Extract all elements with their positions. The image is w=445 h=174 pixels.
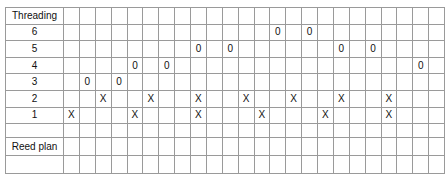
threading-cell-empty: [413, 107, 429, 124]
threading-cell-empty: [318, 90, 334, 107]
threading-mark-x: X: [318, 107, 334, 124]
threading-cell-empty: [206, 74, 222, 91]
threading-cell-empty: [381, 74, 397, 91]
threading-cell-empty: [397, 90, 413, 107]
threading-cell-empty: [429, 24, 445, 41]
threading-cell-empty: [222, 24, 238, 41]
reed-cell-filled: [333, 138, 349, 156]
threading-mark-o: 0: [111, 74, 127, 91]
threading-cell-empty: [381, 24, 397, 41]
threading-cell-empty: [397, 24, 413, 41]
reed-cell-empty: [365, 156, 381, 174]
threading-cell-empty: [381, 41, 397, 58]
reed-cell-empty: [286, 138, 302, 156]
threading-cell-empty: [270, 90, 286, 107]
row-label-shaft-1: 1: [6, 107, 64, 124]
reed-cell-filled: [413, 156, 429, 174]
threading-cell-empty: [191, 124, 207, 138]
threading-cell-empty: [238, 24, 254, 41]
threading-cell-empty: [111, 24, 127, 41]
threading-mark-x: X: [333, 90, 349, 107]
reed-cell-filled: [191, 138, 207, 156]
threading-cell-empty: [254, 24, 270, 41]
threading-cell-empty: [79, 124, 95, 138]
threading-cell-empty: [175, 74, 191, 91]
reed-cell-filled: [238, 138, 254, 156]
row-label-shaft-3: 3: [6, 74, 64, 91]
threading-cell-empty: [381, 8, 397, 25]
threading-cell-empty: [206, 8, 222, 25]
threading-cell-empty: [413, 90, 429, 107]
threading-cell-empty: [318, 8, 334, 25]
threading-cell-empty: [397, 74, 413, 91]
threading-cell-empty: [95, 41, 111, 58]
threading-cell-empty: [175, 24, 191, 41]
reed-cell-filled: [318, 138, 334, 156]
row-label-reed-plan-blank: [6, 156, 64, 174]
row-shaft-6: 6 00: [6, 24, 445, 41]
row-shaft-3: 3 00: [6, 74, 445, 91]
threading-cell-empty: [143, 24, 159, 41]
threading-mark-x: X: [254, 107, 270, 124]
reed-cell-filled: [159, 156, 175, 174]
threading-cell-empty: [397, 124, 413, 138]
reed-cell-filled: [111, 138, 127, 156]
reed-cell-filled: [222, 138, 238, 156]
row-label-shaft-5: 5: [6, 41, 64, 58]
threading-cell-empty: [238, 8, 254, 25]
threading-cell-empty: [381, 124, 397, 138]
row-label-shaft-2: 2: [6, 90, 64, 107]
threading-mark-x: X: [286, 90, 302, 107]
reed-cell-filled: [429, 156, 445, 174]
threading-cell-empty: [365, 124, 381, 138]
reed-cell-empty: [206, 156, 222, 174]
threading-mark-x: X: [143, 90, 159, 107]
threading-mark-x: X: [191, 107, 207, 124]
row-shaft-2: 2 XXXXXXX: [6, 90, 445, 107]
threading-cell-empty: [222, 74, 238, 91]
threading-cell-empty: [206, 24, 222, 41]
threading-mark-o: 0: [127, 57, 143, 74]
threading-cell-empty: [222, 107, 238, 124]
threading-cell-empty: [349, 41, 365, 58]
threading-cell-empty: [175, 41, 191, 58]
threading-mark-x: X: [238, 90, 254, 107]
threading-cell-empty: [143, 41, 159, 58]
threading-cell-empty: [365, 24, 381, 41]
threading-cell-empty: [365, 90, 381, 107]
threading-cell-empty: [238, 57, 254, 74]
threading-cell-empty: [143, 8, 159, 25]
reed-cell-empty: [143, 138, 159, 156]
row-shaft-1: 1 XXXXXX: [6, 107, 445, 124]
threading-cell-empty: [79, 57, 95, 74]
reed-cell-filled: [397, 156, 413, 174]
reed-cell-filled: [175, 156, 191, 174]
threading-cell-empty: [286, 57, 302, 74]
reed-cell-filled: [349, 138, 365, 156]
threading-cell-empty: [365, 8, 381, 25]
threading-cell-empty: [111, 41, 127, 58]
row-reed-plan-top: Reed plan: [6, 138, 445, 156]
threading-cell-empty: [365, 107, 381, 124]
threading-cell-empty: [413, 74, 429, 91]
threading-cell-empty: [302, 41, 318, 58]
threading-cell-empty: [159, 107, 175, 124]
threading-cell-empty: [254, 41, 270, 58]
threading-cell-empty: [95, 57, 111, 74]
threading-cell-empty: [175, 124, 191, 138]
threading-cell-empty: [206, 107, 222, 124]
reed-cell-empty: [95, 156, 111, 174]
threading-cell-empty: [413, 41, 429, 58]
threading-cell-empty: [127, 24, 143, 41]
threading-cell-empty: [429, 41, 445, 58]
threading-cell-empty: [333, 57, 349, 74]
threading-cell-empty: [206, 90, 222, 107]
threading-cell-empty: [302, 107, 318, 124]
threading-cell-empty: [397, 57, 413, 74]
reed-cell-filled: [64, 138, 80, 156]
reed-cell-empty: [270, 138, 286, 156]
threading-cell-empty: [127, 74, 143, 91]
threading-cell-empty: [429, 74, 445, 91]
threading-cell-empty: [333, 8, 349, 25]
threading-cell-empty: [143, 124, 159, 138]
